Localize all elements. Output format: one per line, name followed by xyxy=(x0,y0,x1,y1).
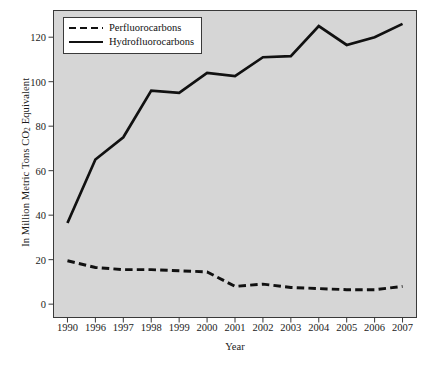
y-axis-tick-marks xyxy=(49,37,54,304)
y-axis-title-prefix: In Million Metric Tons CO xyxy=(20,131,31,247)
plot-panel xyxy=(54,11,417,318)
legend-entry-perfluorocarbons: Perfluorocarbons xyxy=(69,21,194,35)
chart-legend: Perfluorocarbons Hydrofluorocarbons xyxy=(63,17,202,54)
y-axis-title-suffix: Equivalent xyxy=(20,78,31,127)
y-axis-title: In Million Metric Tons CO2 Equivalent xyxy=(20,32,33,292)
legend-label-hydrofluorocarbons: Hydrofluorocarbons xyxy=(109,36,194,48)
x-axis-tick-labels: 1990199619971998199920002001200220032004… xyxy=(0,322,431,340)
y-axis-title-subscript: 2 xyxy=(23,127,32,131)
legend-entry-hydrofluorocarbons: Hydrofluorocarbons xyxy=(69,35,194,49)
chart-figure: 020406080100120 In Million Metric Tons C… xyxy=(0,0,431,368)
y-tick-label: 0 xyxy=(20,299,46,310)
x-tick-label: 2007 xyxy=(383,322,423,333)
legend-label-perfluorocarbons: Perfluorocarbons xyxy=(109,22,181,34)
legend-dashed-line-icon xyxy=(69,22,103,34)
x-axis-title: Year xyxy=(53,341,417,352)
plot-area xyxy=(0,0,431,368)
legend-solid-line-icon xyxy=(69,36,103,48)
